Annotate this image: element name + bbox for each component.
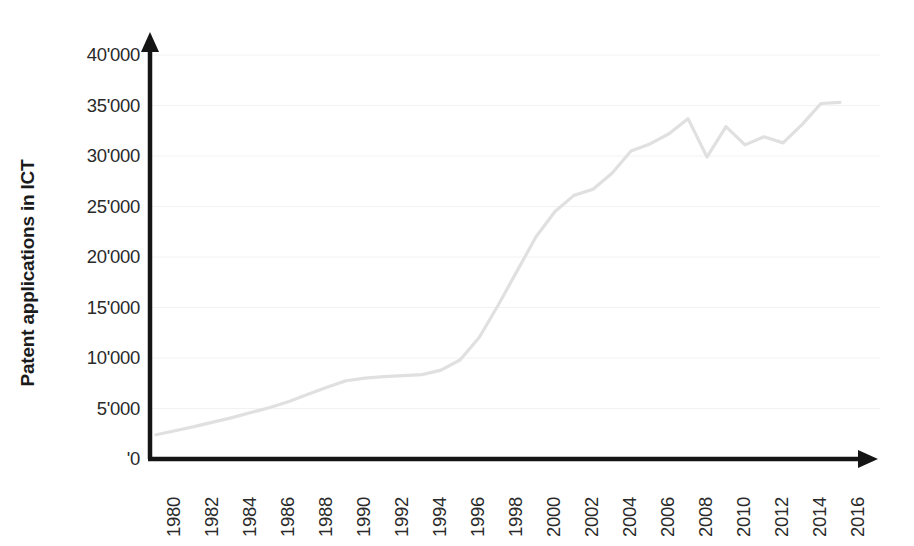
chart-figure: Patent applications in ICT 40'00035'0003… bbox=[0, 0, 914, 546]
axis-lines bbox=[141, 32, 878, 468]
x-axis-arrow-icon bbox=[858, 450, 878, 468]
data-line bbox=[156, 102, 840, 434]
data-series-line bbox=[156, 102, 840, 434]
y-axis-arrow-icon bbox=[141, 32, 159, 52]
plot-area bbox=[0, 0, 914, 546]
gridlines bbox=[150, 55, 880, 409]
